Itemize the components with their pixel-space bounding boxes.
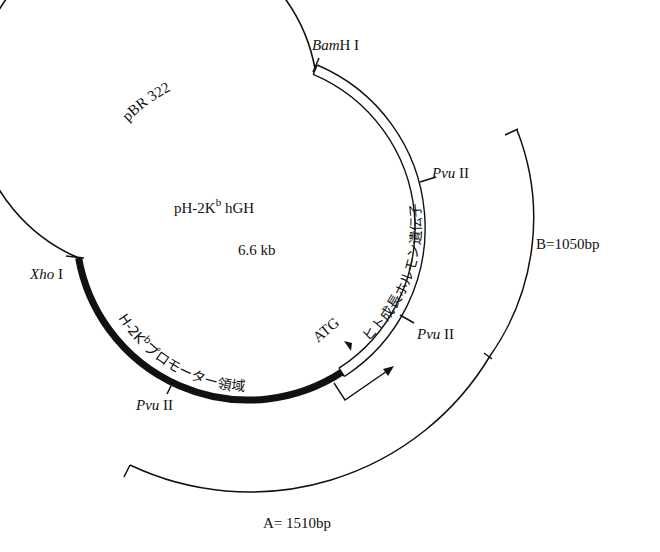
bamhi-label: BamH I <box>312 37 359 53</box>
plasmid-map: BamH I Pvu II Pvu II Pvu II Xho I pH-2Kb… <box>0 0 660 552</box>
plasmid-size: 6.6 kb <box>238 242 276 258</box>
fragment-a-end-cap <box>124 465 130 477</box>
arrowhead-icon <box>383 366 394 376</box>
xhoi-label: Xho I <box>29 266 63 282</box>
atg-label: ATG <box>310 314 343 345</box>
pvu-lower-tick <box>400 315 414 323</box>
pvu-bottom-label: Pvu II <box>135 397 173 413</box>
pbr322-label: pBR 322 <box>119 79 173 124</box>
pvu-lower-label: Pvu II <box>416 326 454 342</box>
promoter-region-label: H-2Kbプロモーター領域 <box>115 311 245 395</box>
atg-marker-icon <box>344 341 352 351</box>
pbr322-backbone-arc <box>0 0 315 258</box>
pvu-upper-label: Pvu II <box>431 165 469 181</box>
hgh-gene-label: ヒト成長ホルモン遺伝子 <box>359 203 424 344</box>
xhoi-tick <box>66 256 84 258</box>
plasmid-name: pH-2Kb hGH <box>174 196 254 216</box>
fragment-b-label: B=1050bp <box>536 236 599 252</box>
fragment-b-arc <box>490 130 534 356</box>
fragment-b-start-cap <box>505 129 518 135</box>
fragment-a-label: A= 1510bp <box>263 515 331 531</box>
